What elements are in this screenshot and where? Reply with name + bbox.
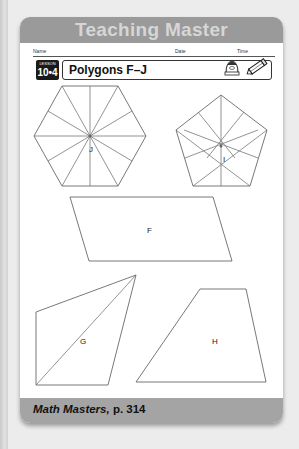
teaching-master-card: Teaching Master Name Date Time LESSON 10… (20, 17, 283, 423)
label-g: G (80, 337, 86, 346)
trapezoid-h (136, 289, 266, 382)
pentagon-i (176, 95, 267, 186)
label-i: I (223, 155, 225, 164)
label-j: J (89, 145, 93, 154)
polygons-drawing: J I F G H (20, 17, 283, 423)
left-edge-strip (0, 0, 8, 449)
label-h: H (212, 337, 218, 346)
footer-reference: Math Masters, p. 314 (33, 403, 146, 415)
footer-book: Math Masters, (33, 403, 110, 415)
label-f: F (147, 226, 152, 235)
footer-page: p. 314 (110, 403, 146, 415)
card-footer: Math Masters, p. 314 (20, 398, 283, 423)
